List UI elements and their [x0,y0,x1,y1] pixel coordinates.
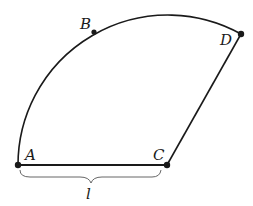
point-C [164,162,170,168]
label-D: D [219,31,232,49]
segment-CD [167,34,241,165]
sector-diagram: A B C D l [0,0,253,206]
label-A: A [23,146,36,164]
label-C: C [153,146,165,164]
arc-ABD [18,15,241,165]
label-l: l [86,185,91,203]
brace-AC [20,170,161,183]
label-B: B [79,15,91,33]
point-D [238,31,244,37]
point-B [91,29,96,34]
point-A [15,162,21,168]
